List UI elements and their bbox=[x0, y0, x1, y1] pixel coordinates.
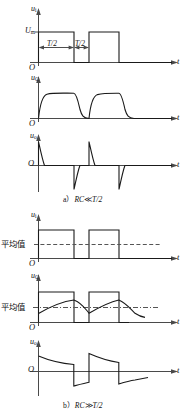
panel-b-ui: ui 平均值 O t bbox=[0, 208, 188, 270]
y-axis-label-uc: uC bbox=[31, 74, 39, 83]
origin-label-ui: O bbox=[29, 63, 35, 72]
time-axis-label-uo-b: t bbox=[177, 366, 179, 375]
rc-waveform-figure: ui Um T/2 T/2 O t uC O bbox=[0, 0, 188, 417]
panel-a-uc: uC O t bbox=[0, 72, 188, 130]
average-value-label-ui: 平均值 bbox=[1, 240, 25, 248]
y-axis-label-ui: ui bbox=[31, 5, 37, 14]
half-period-arrow-left-1 bbox=[39, 46, 44, 50]
half-period-arrow-right-1 bbox=[69, 46, 74, 50]
origin-label-uc: O bbox=[29, 119, 35, 128]
average-value-label-uc: 平均值 bbox=[1, 303, 25, 311]
amplitude-label: Um bbox=[25, 27, 35, 36]
panel-b-uc: uC 平均值 O t bbox=[0, 270, 188, 334]
caption-b: b）RC≫T/2 bbox=[63, 402, 103, 410]
capacitor-ripple-wave bbox=[39, 300, 146, 317]
origin-label-ui-b: O bbox=[29, 259, 35, 268]
differentiator-spike-wave bbox=[39, 142, 173, 190]
panel-a-uo: uo O t a）RC≪T/2 bbox=[0, 130, 188, 208]
origin-label-uo-b: O bbox=[28, 365, 34, 374]
caption-a: a）RC≪T/2 bbox=[63, 196, 102, 204]
time-axis-label-ui-b: t bbox=[177, 253, 179, 262]
y-axis-label-uc-b: uC bbox=[31, 272, 39, 281]
half-period-label-2: T/2 bbox=[75, 40, 85, 47]
time-axis-label-ui: t bbox=[177, 57, 179, 66]
origin-label-uo: O bbox=[28, 159, 34, 168]
panel-b-uo: uo O t b）RC≫T/2 bbox=[0, 334, 188, 417]
time-axis-label-uc: t bbox=[177, 113, 179, 122]
time-axis-label-uo: t bbox=[177, 160, 179, 169]
origin-label-uc-b: O bbox=[29, 323, 35, 332]
panel-a-ui: ui Um T/2 T/2 O t bbox=[0, 0, 188, 72]
time-axis-label-uc-b: t bbox=[177, 317, 179, 326]
y-axis-label-uo-b: uo bbox=[30, 338, 37, 347]
half-period-label-1: T/2 bbox=[47, 40, 57, 47]
y-axis-label-uo: uo bbox=[30, 132, 37, 141]
output-sawtooth-wave bbox=[39, 354, 149, 387]
capacitor-voltage-wave bbox=[39, 93, 173, 118]
y-axis-label-ui-b: ui bbox=[31, 211, 37, 220]
